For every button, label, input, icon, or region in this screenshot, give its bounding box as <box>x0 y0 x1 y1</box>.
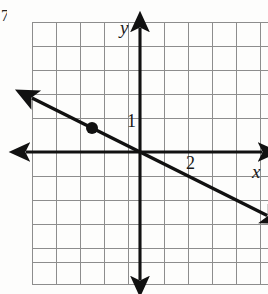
graph-figure: 7. <box>0 0 268 294</box>
x-axis-label: x <box>252 162 260 181</box>
plotted-line <box>32 98 267 216</box>
tick-label-x-2: 2 <box>186 154 195 172</box>
plotted-point <box>86 122 98 134</box>
y-axis-label: y <box>120 18 128 37</box>
coordinate-plane <box>0 0 268 294</box>
tick-label-y-1: 1 <box>127 112 136 130</box>
